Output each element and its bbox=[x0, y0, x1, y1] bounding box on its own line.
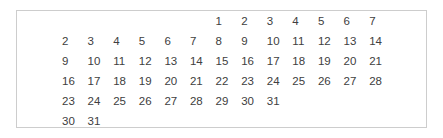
grid-cell: 11 bbox=[107, 51, 133, 71]
grid-cell: 26 bbox=[312, 71, 338, 91]
grid-cell bbox=[184, 11, 210, 31]
grid-cell: 13 bbox=[158, 51, 184, 71]
grid-cell: 19 bbox=[133, 71, 159, 91]
grid-cell: 13 bbox=[338, 31, 364, 51]
grid-cell: 17 bbox=[82, 71, 108, 91]
grid-cell bbox=[133, 111, 159, 131]
grid-cell: 21 bbox=[184, 71, 210, 91]
grid-cell: 20 bbox=[338, 51, 364, 71]
grid-cell: 19 bbox=[312, 51, 338, 71]
grid-cell bbox=[338, 91, 364, 111]
grid-cell bbox=[133, 11, 159, 31]
grid-cell: 21 bbox=[363, 51, 389, 71]
grid-cell bbox=[312, 111, 338, 131]
grid-cell: 28 bbox=[184, 91, 210, 111]
grid-cell: 6 bbox=[338, 11, 364, 31]
grid-cell bbox=[158, 111, 184, 131]
grid-cell: 10 bbox=[82, 51, 108, 71]
grid-cell: 9 bbox=[235, 31, 261, 51]
grid-cell: 30 bbox=[235, 91, 261, 111]
grid-cell: 15 bbox=[210, 51, 236, 71]
grid-cell bbox=[107, 11, 133, 31]
grid-cell: 4 bbox=[286, 11, 312, 31]
grid-cell: 3 bbox=[261, 11, 287, 31]
grid-cell: 31 bbox=[82, 111, 108, 131]
grid-cell: 26 bbox=[133, 91, 159, 111]
grid-cell bbox=[82, 11, 108, 31]
grid-cell bbox=[286, 91, 312, 111]
grid-cell: 16 bbox=[56, 71, 82, 91]
grid-cell bbox=[261, 111, 287, 131]
grid-cell bbox=[235, 111, 261, 131]
grid-cell bbox=[312, 91, 338, 111]
grid-cell: 18 bbox=[286, 51, 312, 71]
grid-cell: 24 bbox=[82, 91, 108, 111]
grid-cell: 14 bbox=[184, 51, 210, 71]
grid-cell: 28 bbox=[363, 71, 389, 91]
grid-cell: 27 bbox=[158, 91, 184, 111]
grid-cell bbox=[363, 91, 389, 111]
grid-cell bbox=[158, 11, 184, 31]
grid-cell bbox=[184, 111, 210, 131]
grid-cell: 20 bbox=[158, 71, 184, 91]
grid-cell: 29 bbox=[210, 91, 236, 111]
grid-cell: 11 bbox=[286, 31, 312, 51]
grid-cell: 24 bbox=[261, 71, 287, 91]
grid-cell: 25 bbox=[286, 71, 312, 91]
grid-cell: 2 bbox=[235, 11, 261, 31]
number-grid: 1234567234567891011121314910111213141516… bbox=[56, 11, 389, 131]
grid-cell: 9 bbox=[56, 51, 82, 71]
grid-cell bbox=[286, 111, 312, 131]
grid-cell: 5 bbox=[312, 11, 338, 31]
grid-cell: 5 bbox=[133, 31, 159, 51]
grid-cell: 25 bbox=[107, 91, 133, 111]
grid-cell: 8 bbox=[210, 31, 236, 51]
grid-cell: 23 bbox=[56, 91, 82, 111]
grid-cell: 23 bbox=[235, 71, 261, 91]
grid-cell: 14 bbox=[363, 31, 389, 51]
grid-cell bbox=[338, 111, 364, 131]
grid-cell bbox=[107, 111, 133, 131]
grid-cell: 7 bbox=[363, 11, 389, 31]
grid-cell: 17 bbox=[261, 51, 287, 71]
grid-cell: 1 bbox=[210, 11, 236, 31]
grid-cell: 16 bbox=[235, 51, 261, 71]
grid-cell: 2 bbox=[56, 31, 82, 51]
grid-cell: 22 bbox=[210, 71, 236, 91]
grid-cell: 7 bbox=[184, 31, 210, 51]
grid-cell: 31 bbox=[261, 91, 287, 111]
grid-cell: 30 bbox=[56, 111, 82, 131]
grid-cell: 10 bbox=[261, 31, 287, 51]
grid-cell: 3 bbox=[82, 31, 108, 51]
grid-cell: 4 bbox=[107, 31, 133, 51]
grid-cell: 6 bbox=[158, 31, 184, 51]
grid-cell bbox=[210, 111, 236, 131]
grid-cell: 18 bbox=[107, 71, 133, 91]
grid-cell bbox=[363, 111, 389, 131]
grid-cell bbox=[56, 11, 82, 31]
grid-cell: 27 bbox=[338, 71, 364, 91]
grid-cell: 12 bbox=[133, 51, 159, 71]
grid-cell: 12 bbox=[312, 31, 338, 51]
